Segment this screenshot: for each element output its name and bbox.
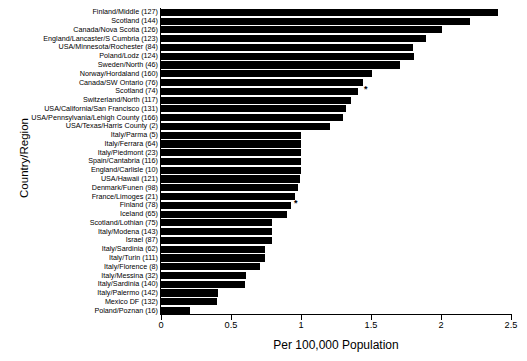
bar — [161, 167, 301, 174]
bar — [161, 105, 346, 112]
bar — [161, 70, 372, 77]
y-tick-label: Poland/Poznan (16) — [94, 307, 158, 315]
plot-area: Finland/Middle (127)Scotland (144)Canada… — [161, 8, 511, 315]
bar — [161, 281, 245, 288]
y-axis-title: Country/Region — [18, 78, 30, 238]
bar-row: Italy/Sardinia (140) — [161, 280, 511, 289]
bar-row: USA/Minnesota/Rochester (84) — [161, 43, 511, 52]
bar-row: Italy/Palermo (142) — [161, 289, 511, 298]
bar-row: Italy/Florence (8) — [161, 262, 511, 271]
bar-row: Switzerland/North (117) — [161, 96, 511, 105]
bar-row: Iceland (65) — [161, 210, 511, 219]
x-tick-mark — [371, 315, 372, 320]
bar-row: Scotland/Lothian (75) — [161, 219, 511, 228]
bar-row: Finland/Middle (127) — [161, 8, 511, 17]
x-tick-label: 2.5 — [505, 320, 518, 330]
bar — [161, 158, 301, 165]
bar-row: Norway/Hordaland (160) — [161, 69, 511, 78]
bar — [161, 298, 217, 305]
bar-row: Sweden/North (46) — [161, 61, 511, 70]
bar-row: Scotland (144) — [161, 17, 511, 26]
bar — [161, 97, 351, 104]
asterisk-annotation: * — [294, 199, 298, 208]
bar — [161, 254, 265, 261]
bar — [161, 35, 426, 42]
bar-row: USA/California/San Francisco (131) — [161, 104, 511, 113]
bar-row: Scotland (74)* — [161, 87, 511, 96]
bar-row: Italy/Messina (32) — [161, 271, 511, 280]
bar — [161, 18, 470, 25]
bar-row: Spain/Cantabria (116) — [161, 157, 511, 166]
bar-row: Italy/Parma (5) — [161, 131, 511, 140]
x-tick-mark — [301, 315, 302, 320]
bar — [161, 44, 413, 51]
x-tick-label: 1.5 — [365, 320, 378, 330]
bar — [161, 53, 414, 60]
bar — [161, 307, 190, 314]
bar — [161, 149, 301, 156]
bar-row: Poland/Poznan (16) — [161, 306, 511, 315]
bar — [161, 26, 442, 33]
bar-row: USA/Hawaii (121) — [161, 175, 511, 184]
bar — [161, 219, 272, 226]
x-tick-mark — [161, 315, 162, 320]
bar — [161, 237, 272, 244]
bar-row: Italy/Modena (143) — [161, 227, 511, 236]
bar — [161, 88, 358, 95]
bar — [161, 140, 301, 147]
bar-row: Italy/Turin (111) — [161, 254, 511, 263]
bar — [161, 193, 295, 200]
x-tick-mark — [231, 315, 232, 320]
bar — [161, 114, 343, 121]
bar — [161, 263, 260, 270]
bar — [161, 79, 363, 86]
bar-row: Mexico DF (132) — [161, 297, 511, 306]
bar — [161, 228, 272, 235]
bar — [161, 272, 246, 279]
bar — [161, 132, 301, 139]
bar — [161, 123, 330, 130]
bar — [161, 9, 498, 16]
x-tick-mark — [511, 315, 512, 320]
bar-row: Canada/SW Ontario (76) — [161, 78, 511, 87]
bar-row: USA/Pennsylvania/Lehigh County (166) — [161, 113, 511, 122]
bar-row: Italy/Ferrara (64) — [161, 140, 511, 149]
x-axis-title: Per 100,000 Population — [161, 338, 511, 352]
bar-row: England/Carlisle (10) — [161, 166, 511, 175]
bar — [161, 184, 298, 191]
bar-row: Italy/Piedmont (23) — [161, 148, 511, 157]
bar-row: Finland (78)* — [161, 201, 511, 210]
x-tick-label: 0.5 — [225, 320, 238, 330]
bar — [161, 211, 287, 218]
bar — [161, 61, 400, 68]
x-tick-label: 1 — [298, 320, 303, 330]
bar-chart-figure: Country/Region Finland/Middle (127)Scotl… — [0, 0, 527, 361]
bar-row: Poland/Lodz (124) — [161, 52, 511, 61]
bar — [161, 246, 265, 253]
bar-row: Italy/Sardinia (62) — [161, 245, 511, 254]
bar-row: France/Limoges (21) — [161, 192, 511, 201]
x-tick-label: 2 — [438, 320, 443, 330]
bar-row: England/Lancaster/S Cumbria (123) — [161, 34, 511, 43]
bar — [161, 202, 291, 209]
x-tick-mark — [441, 315, 442, 320]
bar — [161, 289, 218, 296]
asterisk-annotation: * — [364, 85, 368, 94]
bar-row: Israel (87) — [161, 236, 511, 245]
bar — [161, 175, 300, 182]
bar-row: USA/Texas/Harris County (2) — [161, 122, 511, 131]
bar-row: Denmark/Funen (98) — [161, 183, 511, 192]
x-tick-label: 0 — [158, 320, 163, 330]
bar-row: Canada/Nova Scotia (126) — [161, 26, 511, 35]
